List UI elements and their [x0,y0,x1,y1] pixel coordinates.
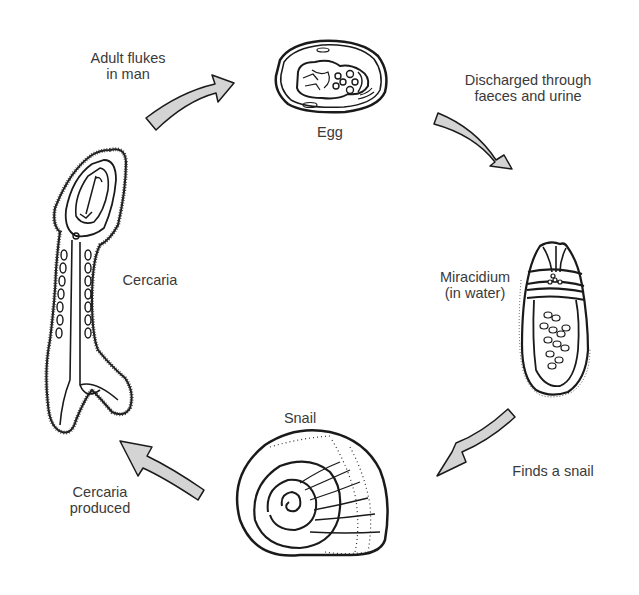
arrow-egg-to-miracidium [434,113,512,169]
label-adult-flukes: Adult flukes in man [78,50,178,82]
label-line: Cercaria [110,272,190,288]
snail-illustration [237,430,388,555]
arrow-adult-to-egg [146,75,234,130]
label-discharged: Discharged through faeces and urine [458,72,598,104]
label-cercaria: Cercaria [110,272,190,288]
label-line: Adult flukes [78,50,178,66]
label-line: in man [78,66,178,82]
label-line: Cercaria [55,484,145,500]
label-cercaria-produced: Cercaria produced [55,484,145,516]
label-line: (in water) [430,285,520,301]
label-snail: Snail [270,410,330,426]
label-line: produced [55,500,145,516]
label-line: Snail [270,410,330,426]
label-finds-snail: Finds a snail [498,463,608,479]
cercaria-illustration [46,149,131,432]
label-egg: Egg [300,124,360,140]
egg-illustration [276,41,387,113]
label-line: Miracidium [430,269,520,285]
label-line: Finds a snail [498,463,608,479]
label-miracidium: Miracidium (in water) [430,269,520,301]
label-line: Egg [300,124,360,140]
label-line: faeces and urine [458,88,598,104]
miracidium-illustration [519,242,590,397]
label-line: Discharged through [458,72,598,88]
